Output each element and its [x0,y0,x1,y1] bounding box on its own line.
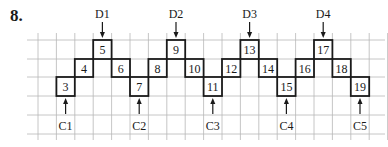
label-text: D2 [169,7,184,21]
label-text: C4 [279,119,293,133]
bottom-arrow-labels: C1C2C3C4C5 [59,98,367,133]
number-box: 17 [314,40,332,59]
number-box: 10 [185,59,203,77]
number-box: 7 [130,77,148,96]
box-number: 14 [262,62,274,76]
number-box: 13 [240,40,258,59]
number-box: 3 [56,77,74,96]
arrowhead-icon [358,98,363,104]
label-text: C2 [132,119,146,133]
staircase-grid-diagram: 345678910111213141516171819 D1D2D3D4 C1C… [0,0,388,147]
number-box: 11 [204,77,222,96]
label-text: C5 [353,119,367,133]
label-text: D4 [316,7,331,21]
top-label-d2: D2 [169,7,184,38]
box-number: 15 [280,80,292,94]
arrowhead-icon [321,32,326,38]
number-box: 6 [112,59,130,77]
box-number: 5 [99,43,105,57]
box-number: 13 [244,43,256,57]
number-box: 9 [167,40,185,59]
number-box: 8 [148,59,166,77]
arrowhead-icon [284,98,289,104]
box-number: 3 [63,80,69,94]
arrowhead-icon [174,32,179,38]
box-number: 9 [173,43,179,57]
box-number: 7 [136,80,142,94]
number-box: 15 [277,77,295,96]
label-text: C1 [59,119,73,133]
arrowhead-icon [210,98,215,104]
number-box: 16 [296,59,314,77]
label-text: D3 [242,7,257,21]
box-number: 19 [354,80,366,94]
top-label-d1: D1 [95,7,110,38]
bottom-label-c2: C2 [132,98,146,133]
number-box: 4 [75,59,93,77]
box-number: 6 [118,62,124,76]
top-label-d3: D3 [242,7,257,38]
number-box: 5 [93,40,111,59]
box-number: 18 [336,62,348,76]
number-box: 18 [332,59,350,77]
label-text: C3 [206,119,220,133]
label-text: D1 [95,7,110,21]
number-box: 19 [351,77,369,96]
box-number: 4 [81,62,87,76]
numbered-boxes: 345678910111213141516171819 [56,40,369,96]
box-number: 10 [188,62,200,76]
top-label-d4: D4 [316,7,331,38]
box-number: 16 [299,62,311,76]
arrowhead-icon [63,98,68,104]
box-number: 12 [225,62,237,76]
bottom-label-c5: C5 [353,98,367,133]
arrowhead-icon [100,32,105,38]
number-box: 14 [259,59,277,77]
bottom-label-c3: C3 [206,98,220,133]
arrowhead-icon [247,32,252,38]
bottom-label-c1: C1 [59,98,73,133]
box-number: 17 [317,43,329,57]
number-box: 12 [222,59,240,77]
arrowhead-icon [137,98,142,104]
bottom-label-c4: C4 [279,98,293,133]
box-number: 8 [155,62,161,76]
box-number: 11 [207,80,219,94]
